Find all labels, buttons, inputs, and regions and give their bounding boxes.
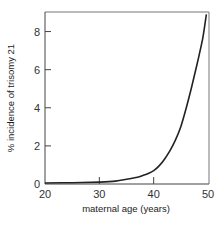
y-tick-label: 8 xyxy=(34,26,40,38)
x-ticks: 20304050 xyxy=(39,177,214,200)
x-tick-label: 20 xyxy=(39,188,51,200)
x-tick-label: 40 xyxy=(148,188,160,200)
incidence-chart: 02468 20304050 % incidence of trisomy 21… xyxy=(0,0,224,227)
incidence-curve xyxy=(45,14,206,183)
y-ticks: 02468 xyxy=(34,26,51,190)
x-axis-title: maternal age (years) xyxy=(82,203,170,214)
y-tick-label: 4 xyxy=(34,102,40,114)
y-tick-label: 2 xyxy=(34,140,40,152)
x-tick-label: 30 xyxy=(93,188,105,200)
x-tick-label: 50 xyxy=(202,188,214,200)
y-tick-label: 6 xyxy=(34,64,40,76)
y-axis-title: % incidence of trisomy 21 xyxy=(5,44,16,152)
